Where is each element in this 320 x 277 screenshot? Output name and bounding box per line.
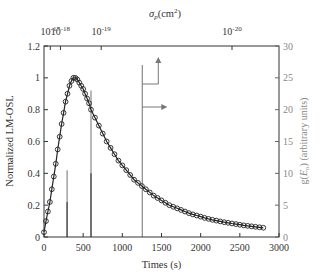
x-tick-label: 1500 [152,242,172,253]
x-tick-label: 500 [76,242,91,253]
x-tick-label: 1000 [112,242,132,253]
data-markers [42,75,266,234]
y-axis-title: Normalized LM-OSL [4,95,15,186]
plot-frame [44,46,279,237]
g-distribution-stems [67,65,142,237]
x-tick-label: 2000 [191,242,211,253]
top-tick-label: 10-20 [222,25,242,37]
y-tick-label: 0.8 [28,104,41,115]
right-tick-label: 15 [283,136,293,147]
y-tick-label: 0 [35,232,40,243]
right-tick-label: 10 [283,168,293,179]
right-tick-label: 25 [283,72,293,83]
y-tick-label: 1 [35,72,40,83]
x-tick-label: 0 [42,242,47,253]
y-tick-label: 0.2 [28,200,41,211]
top-tick-label: 10-18 [51,25,71,37]
right-tick-label: 30 [283,41,293,52]
right-tick-label: 0 [283,232,288,243]
x-axis-title: Times (s) [142,259,182,271]
right-tick-label: 5 [283,200,288,211]
right-tick-label: 20 [283,104,293,115]
y-tick-label: 0.6 [28,136,41,147]
x-tick-label: 3000 [269,242,289,253]
y-tick-label: 1.2 [28,41,41,52]
y-tick-label: 0.4 [28,168,41,179]
arrow-up-icon [155,57,161,63]
x-tick-label: 2500 [230,242,250,253]
arrow-right-icon [161,104,167,110]
right-y-axis-title: g(Eo) (arbitrary units) [298,98,311,185]
fit-curve [44,78,263,232]
arrow-annotations [142,57,167,110]
top-tick-label: 10-19 [92,25,112,37]
top-axis-title: σp(cm2) [149,7,182,21]
lm-osl-chart: 05001000150020002500300000.20.40.60.811.… [0,0,320,277]
